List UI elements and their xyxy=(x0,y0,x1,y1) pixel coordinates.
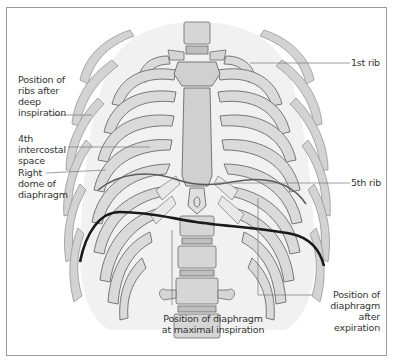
label-line: Position of diaphragm xyxy=(150,313,276,324)
label-line: space xyxy=(18,155,66,166)
label-line: ribs after xyxy=(18,85,66,96)
label-diaphragm-max-inspiration: Position of diaphragm at maximal inspira… xyxy=(150,313,276,335)
thorax-diagram: 1st rib Position of ribs after deep insp… xyxy=(0,0,394,362)
label-line: diaphragm xyxy=(18,189,68,200)
label-line: deep xyxy=(18,96,66,107)
label-4th-intercostal-space: 4th intercostal space xyxy=(18,133,66,166)
label-line: Right xyxy=(18,167,68,178)
label-line: dome of xyxy=(18,178,68,189)
label-right-dome-diaphragm: Right dome of diaphragm xyxy=(18,167,68,200)
label-line: expiration xyxy=(314,322,380,333)
label-line: after xyxy=(314,311,380,322)
label-line: at maximal inspiration xyxy=(150,324,276,335)
label-ribs-deep-inspiration: Position of ribs after deep inspiration xyxy=(18,74,66,118)
label-line: Position of xyxy=(314,289,380,300)
label-line: Position of xyxy=(18,74,66,85)
label-line: intercostal xyxy=(18,144,66,155)
label-diaphragm-after-expiration: Position of diaphragm after expiration xyxy=(314,289,380,333)
label-5th-rib: 5th rib xyxy=(351,177,381,188)
label-1st-rib: 1st rib xyxy=(351,57,380,68)
label-line: 4th xyxy=(18,133,66,144)
label-line: diaphragm xyxy=(314,300,380,311)
label-line: inspiration xyxy=(18,107,66,118)
